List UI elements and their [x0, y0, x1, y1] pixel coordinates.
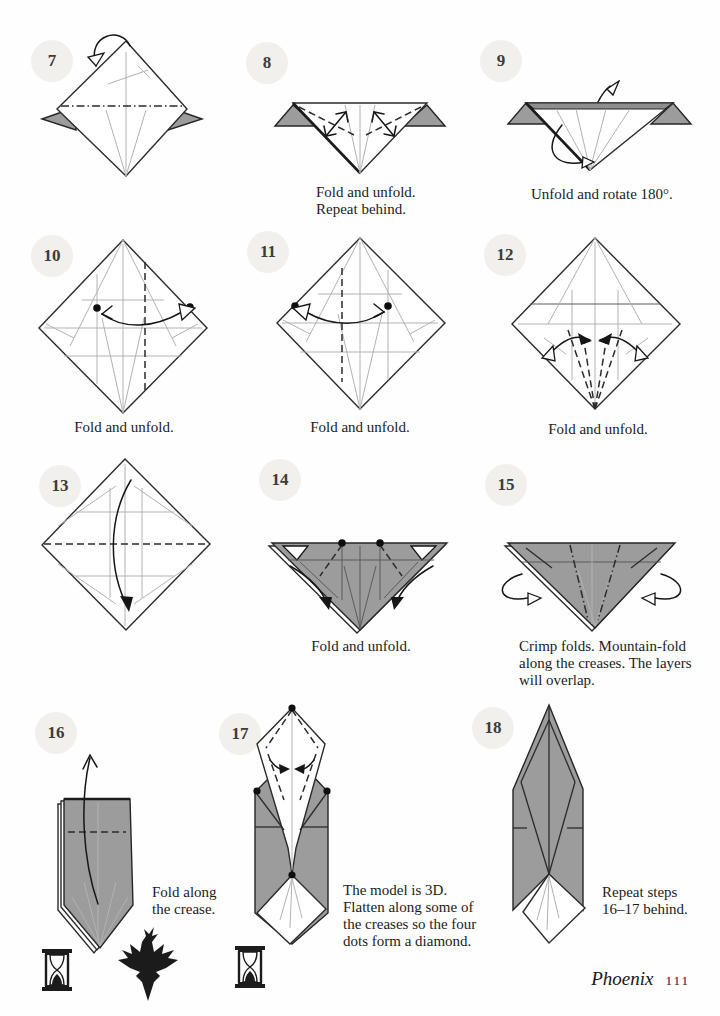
- page-footer: Phoenix111: [540, 968, 690, 990]
- step-number: 15: [498, 475, 515, 495]
- step-15-caption: Crimp folds. Mountain-fold along the cre…: [519, 638, 694, 689]
- landmark-dot: [384, 302, 392, 310]
- step-number: 14: [272, 470, 289, 490]
- step-11-diagram: [270, 230, 450, 416]
- crimp-arrow: [655, 574, 681, 599]
- landmark-dot: [288, 871, 295, 878]
- landmark-dot: [323, 787, 330, 794]
- hourglass-icon: [38, 948, 76, 992]
- step-number-badge-14: 14: [259, 459, 301, 501]
- landmark-dot: [288, 704, 295, 711]
- landmark-dot: [338, 539, 346, 547]
- step-14-caption: Fold and unfold.: [256, 638, 466, 655]
- step-10-diagram: [36, 234, 212, 418]
- step-11-caption: Fold and unfold.: [270, 419, 450, 436]
- model-title: Phoenix: [591, 968, 653, 989]
- crimp-arrow: [502, 574, 528, 599]
- step-16-caption: Fold along the crease.: [152, 884, 242, 918]
- step-number-badge-8: 8: [246, 42, 288, 84]
- phoenix-icon: [116, 926, 180, 1002]
- paper-diamond: [57, 41, 187, 176]
- step-13-diagram: [28, 448, 228, 643]
- landmark-dot: [93, 304, 101, 312]
- step-number-badge-9: 9: [480, 40, 522, 82]
- step-9-caption: Unfold and rotate 180°.: [531, 186, 673, 203]
- step-10-caption: Fold and unfold.: [36, 419, 212, 436]
- step-12-caption: Fold and unfold.: [508, 421, 688, 438]
- step-18-caption: Repeat steps 16–17 behind.: [602, 884, 702, 918]
- top-edge-band: [526, 103, 673, 109]
- step-12-diagram: [508, 230, 688, 416]
- page-number: 111: [665, 973, 690, 988]
- step-number: 16: [48, 723, 65, 743]
- paper-triangle: [526, 103, 673, 170]
- step-17-caption: The model is 3D. Flatten along some of t…: [343, 882, 488, 950]
- step-18-diagram: [493, 696, 613, 956]
- step-14-diagram: [256, 526, 466, 644]
- step-8-caption: Fold and unfold. Repeat behind.: [316, 184, 416, 218]
- step-number: 8: [263, 53, 272, 73]
- step-15-diagram: [486, 522, 696, 647]
- book-page: 7 8 Fold and unfold. Repeat behind. 9: [0, 0, 720, 1016]
- step-number-badge-15: 15: [485, 464, 527, 506]
- landmark-dot: [376, 539, 384, 547]
- landmark-dot: [253, 787, 260, 794]
- step-8-diagram: [262, 88, 447, 193]
- step-16-diagram: [38, 742, 173, 957]
- step-7-diagram: [30, 22, 210, 192]
- step-9-diagram: [498, 80, 693, 190]
- step-17-diagram: [238, 696, 353, 958]
- hourglass-icon: [231, 944, 269, 990]
- step-number: 9: [497, 51, 506, 71]
